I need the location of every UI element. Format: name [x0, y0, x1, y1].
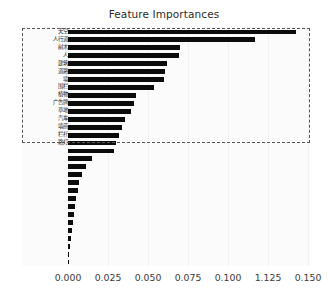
bar-row[interactable]: 天空 [22, 28, 310, 36]
bar-category-label: 广告牌 [8, 100, 68, 105]
bar-row[interactable]: 汽车 [22, 115, 310, 123]
bar-row[interactable] [22, 187, 310, 195]
bar-rect[interactable] [68, 93, 136, 98]
bar-rect[interactable] [68, 30, 296, 35]
bar-row[interactable] [22, 242, 310, 250]
bar-row[interactable] [22, 163, 310, 171]
bar-category-label: 天空 [8, 29, 68, 34]
bar-row[interactable] [22, 258, 310, 266]
bar-row[interactable] [22, 226, 310, 234]
bar-rect[interactable] [68, 244, 70, 249]
bar-row[interactable] [22, 155, 310, 163]
bar-rect[interactable] [68, 196, 76, 201]
bar-row[interactable] [22, 210, 310, 218]
chart-title: Feature Importances [0, 8, 328, 20]
bar-row[interactable]: 路灯 [22, 139, 310, 147]
figure-canvas: Feature Importances 天空人行道树木人建筑道路墙围栏植物广告牌… [0, 0, 328, 300]
bar-rect[interactable] [68, 117, 125, 122]
bar-row[interactable]: 人 [22, 52, 310, 60]
bar-rect[interactable] [68, 133, 119, 138]
x-tick-label: 0.025 [95, 272, 122, 283]
bar-row[interactable] [22, 218, 310, 226]
plot-area: 天空人行道树木人建筑道路墙围栏植物广告牌草地汽车墙画栏杆路灯 [22, 28, 310, 266]
bar-category-label: 植物 [8, 92, 68, 97]
bar-rect[interactable] [68, 101, 134, 106]
bar-row[interactable] [22, 195, 310, 203]
bar-category-label: 栏杆 [8, 132, 68, 137]
bar-rect[interactable] [68, 53, 179, 58]
bar-rect[interactable] [68, 252, 69, 257]
bar-rect[interactable] [68, 45, 180, 50]
x-tick-label: 0.150 [295, 272, 322, 283]
x-tick-label: 1.125 [255, 272, 282, 283]
bar-category-label: 墙画 [8, 124, 68, 129]
bar-rect[interactable] [68, 37, 255, 42]
bar-row[interactable]: 建筑 [22, 60, 310, 68]
x-tick-label: 0.075 [175, 272, 202, 283]
bar-rect[interactable] [68, 85, 154, 90]
bar-category-label: 人行道 [8, 37, 68, 42]
bar-category-label: 人 [8, 53, 68, 58]
bar-row[interactable] [22, 147, 310, 155]
bar-rect[interactable] [68, 77, 164, 82]
bar-row[interactable]: 墙画 [22, 123, 310, 131]
bar-category-label: 墙 [8, 77, 68, 82]
bar-row[interactable]: 人行道 [22, 36, 310, 44]
x-tick-label: 0.000 [55, 272, 82, 283]
bar-row[interactable] [22, 234, 310, 242]
bar-rect[interactable] [68, 236, 71, 241]
bar-rect[interactable] [68, 228, 72, 233]
bar-rect[interactable] [68, 69, 165, 74]
bar-row[interactable]: 栏杆 [22, 131, 310, 139]
bar-row[interactable] [22, 250, 310, 258]
bar-row[interactable]: 树木 [22, 44, 310, 52]
bar-rect[interactable] [68, 125, 122, 130]
bar-rect[interactable] [68, 61, 167, 66]
bar-rect[interactable] [68, 204, 75, 209]
bar-category-label: 草地 [8, 108, 68, 113]
bar-row[interactable] [22, 179, 310, 187]
bar-rect[interactable] [68, 260, 69, 265]
bar-rect[interactable] [68, 109, 131, 114]
bar-category-label: 围栏 [8, 84, 68, 89]
bar-category-label: 建筑 [8, 61, 68, 66]
bar-rect[interactable] [68, 220, 73, 225]
x-tick-label: 0.050 [135, 272, 162, 283]
bar-rect[interactable] [68, 212, 74, 217]
x-axis-tick-labels: 0.0000.0250.0500.0750.1001.1250.150 [0, 272, 328, 288]
bar-rect[interactable] [68, 149, 114, 154]
bar-rect[interactable] [68, 188, 78, 193]
bar-rect[interactable] [68, 156, 92, 161]
bar-category-label: 汽车 [8, 116, 68, 121]
bar-row[interactable] [22, 203, 310, 211]
bar-row[interactable]: 道路 [22, 68, 310, 76]
bar-category-label: 道路 [8, 69, 68, 74]
bar-rect[interactable] [68, 172, 82, 177]
bars-layer: 天空人行道树木人建筑道路墙围栏植物广告牌草地汽车墙画栏杆路灯 [22, 28, 310, 266]
bar-rect[interactable] [68, 180, 79, 185]
bar-category-label: 树木 [8, 45, 68, 50]
bar-rect[interactable] [68, 141, 116, 146]
bar-category-label: 路灯 [8, 140, 68, 145]
bar-rect[interactable] [68, 164, 86, 169]
bar-row[interactable] [22, 171, 310, 179]
x-tick-label: 0.100 [215, 272, 242, 283]
